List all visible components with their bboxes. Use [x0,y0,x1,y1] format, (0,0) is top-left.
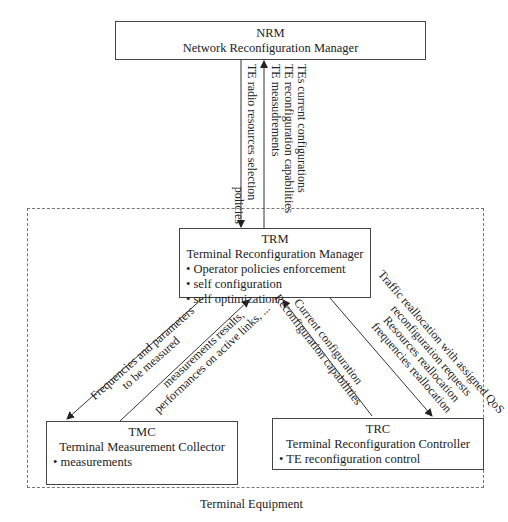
edge-label-nrm-to-trm: TE radio resources selection policies [232,64,258,224]
tmc-box: TMC Terminal Measurement Collector • mea… [46,421,238,485]
tmc-name: Terminal Measurement Collector [47,440,237,455]
edge-label-line: TE measudrements [269,64,282,213]
edge-label-trm-to-nrm: TEs current configurations TE reconfigur… [269,64,308,213]
nrm-box: NRM Network Reconfiguration Manager [115,21,426,60]
edge-label-line: TE reconfiguration capabilities [282,64,295,213]
nrm-name: Network Reconfiguration Manager [116,41,425,56]
trm-item: • Operator policies enforcement [180,262,370,277]
trc-name: Terminal Reconfiguration Controller [273,437,483,452]
trm-item: • self configuration [180,277,370,292]
trc-box: TRC Terminal Reconfiguration Controller … [272,418,484,470]
nrm-abbr: NRM [116,26,425,41]
edge-label-line: TEs current configurations [295,64,308,213]
trc-item: • TE reconfiguration control [273,452,483,467]
tmc-item: • measurements [47,455,237,470]
tmc-abbr: TMC [47,425,237,440]
trm-name: Terminal Reconfiguration Manager [180,247,370,262]
trm-box: TRM Terminal Reconfiguration Manager • O… [179,228,371,298]
edge-label-line: TE radio resources selection [245,64,258,224]
trm-abbr: TRM [180,232,370,247]
edge-label-line: policies [232,64,245,224]
